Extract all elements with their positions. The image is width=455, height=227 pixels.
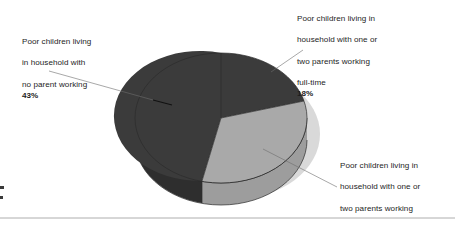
callout-line: Poor children living in: [297, 14, 375, 23]
callout-line: two parents working: [340, 204, 413, 213]
callout-line: Poor children living: [22, 37, 91, 46]
callout-label-part-time: Poor children living in household with o…: [340, 150, 455, 227]
callout-line: Poor children living in: [340, 161, 418, 170]
callout-percent: 18%: [297, 89, 447, 100]
pie-chart-figure: Poor children living in household with o…: [0, 0, 455, 227]
callout-line: household with one or: [340, 182, 420, 191]
page-edge-mark: [0, 196, 3, 199]
callout-line: household with one or: [297, 35, 377, 44]
callout-line: no parent working: [22, 80, 87, 89]
page-edge-mark: [0, 186, 4, 189]
callout-label-no-parent: Poor children living in household with n…: [22, 26, 142, 112]
callout-line: in household with: [22, 58, 85, 67]
callout-percent: 43%: [22, 90, 142, 101]
pie-top-face: [114, 51, 307, 183]
callout-line: full-time: [297, 78, 326, 87]
callout-line: part-time: [340, 225, 372, 227]
callout-label-full-time: Poor children living in household with o…: [297, 3, 447, 111]
callout-line: two parents working: [297, 57, 370, 66]
